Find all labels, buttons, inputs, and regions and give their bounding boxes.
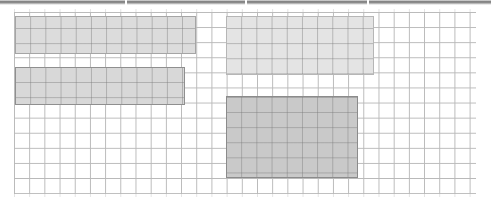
bottom-left-block[interactable] xyxy=(15,67,185,105)
bottom-right-block-grid xyxy=(227,97,357,177)
top-right-block[interactable] xyxy=(226,16,374,75)
app-window xyxy=(0,0,491,207)
bottom-left-block-grid xyxy=(16,68,184,104)
toolbar-segment-divider-3 xyxy=(367,0,369,5)
top-left-block-grid xyxy=(16,17,195,53)
cropped-toolbar-strip xyxy=(0,0,491,5)
top-right-block-grid xyxy=(227,17,373,74)
toolbar-segment-divider-2 xyxy=(245,0,247,5)
toolbar-segment-divider-1 xyxy=(125,0,127,5)
grid-canvas[interactable] xyxy=(14,12,476,194)
bottom-right-block[interactable] xyxy=(226,96,358,178)
top-left-block[interactable] xyxy=(15,16,196,54)
